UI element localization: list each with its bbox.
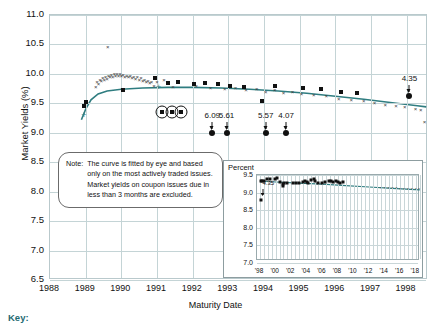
note-box: Note: The curve is fitted by eye and bas… (58, 152, 223, 208)
data-point-marker: × (234, 85, 238, 91)
data-point-marker: × (350, 97, 354, 103)
data-annotation-label: 6.09 (204, 111, 220, 120)
inset-grid-line-vertical (287, 175, 288, 259)
inset-data-point-marker (298, 181, 301, 184)
grid-line-vertical (193, 15, 194, 278)
inset-x-tick-label: '14 (379, 267, 387, 274)
inset-grid-line-vertical (369, 175, 370, 259)
data-point-marker (260, 99, 264, 103)
key-label: Key: (8, 312, 29, 323)
inset-grid-line-vertical (318, 175, 319, 259)
inset-grid-line-vertical (354, 175, 355, 259)
inset-data-point-marker: × (395, 186, 397, 190)
data-point-marker (263, 130, 269, 136)
grid-line-vertical (86, 15, 87, 278)
inset-x-tick-label: '08 (333, 267, 341, 274)
inset-x-tick-label: '12 (364, 267, 372, 274)
grid-line-vertical (121, 15, 122, 278)
inset-grid-line-vertical (350, 175, 351, 259)
data-point-marker: × (171, 84, 175, 90)
data-point-marker: × (291, 89, 295, 95)
data-point-marker (228, 84, 232, 88)
data-point-marker (273, 84, 277, 88)
data-point-marker (160, 110, 164, 114)
inset-data-point-marker (276, 177, 279, 180)
inset-x-tick-label: '06 (317, 267, 325, 274)
inset-y-tick-label: 7.0 (224, 259, 253, 266)
inset-grid-line-vertical (311, 175, 312, 259)
annotation-arrow (265, 122, 266, 129)
inset-grid-line-vertical (346, 175, 347, 259)
inset-data-point-marker (307, 181, 310, 184)
inset-x-tick-label: '04 (302, 267, 310, 274)
y-tick-label: 7.0 (2, 245, 44, 255)
annotation-arrow (409, 85, 410, 92)
inset-data-point-marker: × (403, 187, 405, 191)
note-text: The curve is fitted by eye and based onl… (87, 159, 214, 201)
data-point-marker: × (373, 100, 377, 106)
data-point-marker: + (81, 111, 86, 120)
data-point-marker: × (325, 93, 329, 99)
y-tick-label: 10.0 (2, 68, 44, 78)
data-point-marker (209, 130, 215, 136)
inset-data-point-marker: × (383, 186, 385, 190)
inset-grid-line-vertical (264, 175, 265, 259)
data-point-marker: + (156, 83, 161, 92)
data-point-marker (242, 85, 246, 89)
grid-line-vertical (157, 15, 158, 278)
data-point-marker (166, 81, 170, 85)
data-point-marker: × (223, 86, 227, 92)
inset-grid-line-horizontal (257, 263, 418, 264)
inset-grid-line-vertical (330, 175, 331, 259)
data-point-marker: × (419, 107, 423, 113)
data-point-marker (176, 80, 180, 84)
data-point-marker: × (423, 119, 427, 125)
inset-grid-line-vertical (361, 175, 362, 259)
inset-data-point-marker: × (418, 187, 420, 191)
inset-grid-line-vertical (377, 175, 378, 259)
data-point-marker (406, 93, 412, 99)
inset-data-point-marker: × (387, 186, 389, 190)
data-annotation-label: 4.35 (402, 74, 418, 83)
data-point-marker (179, 110, 183, 114)
data-annotation-label: 4.07 (278, 111, 294, 120)
inset-y-tick-label: 8.0 (224, 223, 253, 230)
data-point-marker: × (282, 90, 286, 96)
y-tick-label: 11.0 (2, 9, 44, 19)
data-point-marker (355, 91, 359, 95)
inset-grid-line-vertical (303, 175, 304, 259)
data-point-marker (301, 86, 305, 90)
inset-grid-line-vertical (260, 175, 261, 259)
inset-x-tick-label: '10 (348, 267, 356, 274)
inset-data-point-marker: × (399, 187, 401, 191)
chart-root: Market Yields (%) 6.57.07.58.08.59.09.51… (0, 0, 431, 330)
x-axis-title: Maturity Date (0, 300, 431, 310)
inset-grid-line-vertical (322, 175, 323, 259)
inset-grid-line-vertical (295, 175, 296, 259)
inset-grid-line-vertical (357, 175, 358, 259)
data-point-marker: × (255, 86, 259, 92)
y-tick-label: 7.5 (2, 215, 44, 225)
inset-x-tick-label: '18 (411, 267, 419, 274)
inset-x-tick-label: '00 (270, 267, 278, 274)
inset-y-tick-label: 9.0 (224, 188, 253, 195)
annotation-arrow (212, 122, 213, 129)
data-point-marker: × (414, 106, 418, 112)
inset-plot-area: ×××××××××××4.35 (256, 174, 419, 260)
inset-data-point-marker: × (415, 187, 417, 191)
data-point-marker: × (312, 92, 316, 98)
grid-line-horizontal (50, 133, 426, 134)
y-tick-label: 8.5 (2, 156, 44, 166)
grid-line-horizontal (50, 15, 426, 16)
annotation-arrow (286, 122, 287, 129)
inset-data-point-marker: × (391, 186, 393, 190)
inset-grid-line-vertical (326, 175, 327, 259)
data-point-marker: × (264, 89, 268, 95)
inset-x-tick-label: '02 (286, 267, 294, 274)
data-point-marker: × (337, 96, 341, 102)
data-point-marker: × (362, 98, 366, 104)
data-point-marker: × (394, 103, 398, 109)
data-point-marker: × (106, 44, 110, 50)
inset-x-tick-label: '98 (255, 267, 263, 274)
data-point-marker (319, 87, 323, 91)
